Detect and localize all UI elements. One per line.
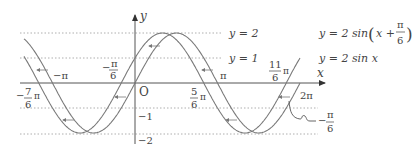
tick-2pi: 2π <box>300 90 313 101</box>
svg-text:6: 6 <box>25 99 31 110</box>
svg-text:π: π <box>200 92 206 102</box>
tick-pi: π <box>220 70 227 81</box>
curve-label-shifted: y = 2 sin ( x + π 6 ) <box>318 19 413 46</box>
svg-text:): ) <box>406 24 413 44</box>
ref-label-y1: y = 1 <box>228 52 258 65</box>
svg-text:x +: x + <box>376 27 395 40</box>
tick-neg-pi-6: − π 6 <box>102 58 118 81</box>
svg-text:7: 7 <box>25 86 31 97</box>
svg-text:6: 6 <box>272 72 278 83</box>
svg-text:−: − <box>318 115 326 126</box>
svg-text:−: − <box>16 90 24 101</box>
x-axis-label: x <box>317 66 324 80</box>
ref-label-y2: y = 2 <box>228 27 258 40</box>
svg-text:π: π <box>34 91 40 101</box>
svg-text:6: 6 <box>397 35 403 46</box>
svg-text:(: ( <box>368 24 375 44</box>
svg-text:6: 6 <box>191 99 197 110</box>
tick-11-6-pi: 11 6 π <box>269 59 289 83</box>
origin-label: O <box>139 85 149 99</box>
svg-text:π: π <box>283 66 289 76</box>
svg-text:5: 5 <box>191 86 197 97</box>
svg-text:11: 11 <box>269 59 282 70</box>
svg-text:6: 6 <box>327 123 333 134</box>
ref-label-y-neg2: −2 <box>138 135 153 146</box>
svg-text:6: 6 <box>110 70 116 81</box>
curve-label-base: y = 2 sin x <box>318 52 379 65</box>
shift-leader-line <box>289 101 316 121</box>
tick-5-6-pi: 5 6 π <box>190 86 206 110</box>
svg-text:y = 2 sin: y = 2 sin <box>318 27 368 40</box>
svg-text:π: π <box>327 109 334 120</box>
tick-neg-pi: −π <box>53 70 68 81</box>
svg-text:π: π <box>111 58 118 69</box>
svg-text:π: π <box>397 19 404 30</box>
shift-annotation-label: − π 6 <box>318 109 334 134</box>
ref-label-y-neg1: −1 <box>138 111 153 122</box>
sine-shift-diagram: y x O y = 2 y = 1 −1 −2 y = 2 sin ( x + … <box>0 0 420 151</box>
tick-neg-7-6-pi: − 7 6 π <box>16 86 40 110</box>
y-axis-label: y <box>139 9 147 23</box>
